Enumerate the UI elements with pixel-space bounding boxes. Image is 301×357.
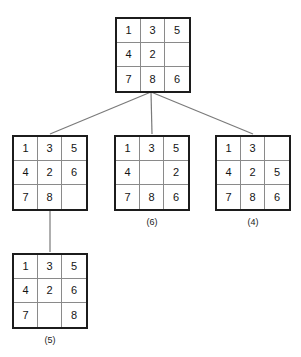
tile: 2 <box>141 43 165 67</box>
node-label: (4) <box>215 217 291 227</box>
tile: 5 <box>165 19 189 43</box>
tile-blank <box>265 137 289 161</box>
tile: 5 <box>62 137 86 161</box>
tile: 1 <box>116 137 140 161</box>
tile: 6 <box>265 185 289 209</box>
tile: 2 <box>241 161 265 185</box>
tile: 3 <box>141 19 165 43</box>
tile: 4 <box>14 279 38 303</box>
tile: 6 <box>164 185 188 209</box>
tile: 8 <box>62 303 86 327</box>
tile: 4 <box>14 161 38 185</box>
puzzle-grid-grandchild: 1 3 5 4 2 6 7 8 <box>12 253 88 329</box>
node-label: (5) <box>12 335 88 345</box>
tile-blank <box>165 43 189 67</box>
edge-root-to-right <box>151 92 253 134</box>
tile: 3 <box>140 137 164 161</box>
tile: 6 <box>62 161 86 185</box>
puzzle-grid-child-right: 1 3 4 2 5 7 8 6 <box>215 135 291 211</box>
tile: 4 <box>117 43 141 67</box>
edge-root-to-left <box>50 92 151 134</box>
tile: 8 <box>38 185 62 209</box>
tile: 2 <box>38 279 62 303</box>
tile: 3 <box>241 137 265 161</box>
puzzle-grid-child-left: 1 3 5 4 2 6 7 8 <box>12 135 88 211</box>
tile: 1 <box>217 137 241 161</box>
tile: 7 <box>116 185 140 209</box>
tile: 7 <box>117 67 141 91</box>
node-child-right[interactable]: 1 3 4 2 5 7 8 6 (4) <box>215 135 291 211</box>
tile: 6 <box>62 279 86 303</box>
tile: 2 <box>38 161 62 185</box>
tile-blank <box>38 303 62 327</box>
tile-blank <box>140 161 164 185</box>
tile: 5 <box>265 161 289 185</box>
tile: 8 <box>140 185 164 209</box>
node-label: (6) <box>114 217 190 227</box>
tile-blank <box>62 185 86 209</box>
tile: 6 <box>165 67 189 91</box>
tile: 7 <box>14 185 38 209</box>
puzzle-grid-child-middle: 1 3 5 4 2 7 8 6 <box>114 135 190 211</box>
puzzle-grid-root: 1 3 5 4 2 7 8 6 <box>115 17 191 93</box>
tile: 5 <box>164 137 188 161</box>
node-child-left[interactable]: 1 3 5 4 2 6 7 8 <box>12 135 88 211</box>
tile: 1 <box>14 137 38 161</box>
tile: 8 <box>141 67 165 91</box>
tile: 7 <box>217 185 241 209</box>
node-grandchild[interactable]: 1 3 5 4 2 6 7 8 (5) <box>12 253 88 329</box>
tile: 1 <box>14 255 38 279</box>
node-root[interactable]: 1 3 5 4 2 7 8 6 <box>115 17 191 93</box>
node-child-middle[interactable]: 1 3 5 4 2 7 8 6 (6) <box>114 135 190 211</box>
tile: 4 <box>116 161 140 185</box>
tile: 5 <box>62 255 86 279</box>
tile: 1 <box>117 19 141 43</box>
tile: 8 <box>241 185 265 209</box>
tile: 7 <box>14 303 38 327</box>
tile: 4 <box>217 161 241 185</box>
edge-root-to-middle <box>151 92 152 134</box>
tile: 2 <box>164 161 188 185</box>
tile: 3 <box>38 137 62 161</box>
tile: 3 <box>38 255 62 279</box>
